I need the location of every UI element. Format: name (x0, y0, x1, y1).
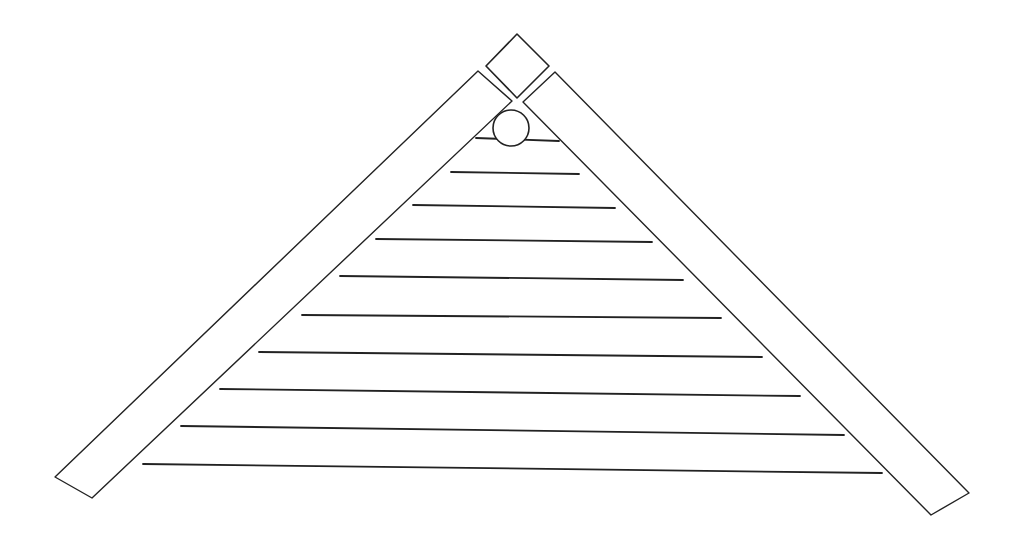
right-rafter-board (523, 72, 969, 515)
siding-line (259, 352, 762, 357)
siding-line (451, 172, 579, 174)
round-vent-icon (493, 110, 529, 146)
siding-line (181, 426, 844, 435)
siding-line (302, 315, 721, 318)
siding-line (413, 205, 615, 208)
apex-ridge-block (486, 34, 549, 98)
siding-line (143, 464, 882, 473)
siding-line (376, 239, 652, 242)
gable-drawing (0, 0, 1024, 547)
gable-svg (0, 0, 1024, 547)
siding-line (220, 389, 800, 396)
left-rafter-board (55, 71, 512, 498)
siding-line (340, 276, 683, 280)
siding-lines (143, 138, 882, 473)
